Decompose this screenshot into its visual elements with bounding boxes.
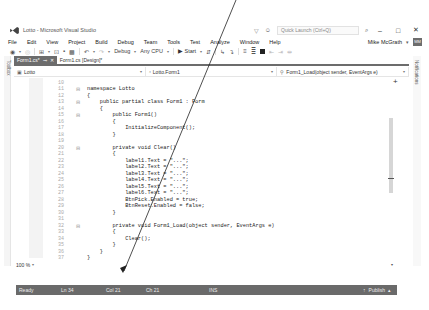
clear-bookmarks-icon[interactable]: ⇹ <box>287 48 292 55</box>
redo-icon[interactable]: ↷ <box>99 48 104 55</box>
step-into-icon[interactable]: ↳ <box>220 48 225 55</box>
search-icon[interactable]: ⌕ <box>365 27 368 34</box>
forward-navigation-icon[interactable]: ◎ <box>25 48 30 55</box>
menu-team[interactable]: Team <box>144 39 157 45</box>
dropdown-caret-icon: ▾ <box>108 49 110 54</box>
solution-platform-select[interactable]: Any CPU <box>140 48 163 54</box>
next-bookmark-icon[interactable]: ⇥ <box>278 48 283 55</box>
chevron-up-icon: ▴ <box>388 287 391 293</box>
menu-test[interactable]: Test <box>190 39 200 45</box>
save-icon[interactable]: ▪ <box>63 48 65 54</box>
standard-toolbar: ◉ ▾ ◎ ⊞ ▾ ⊡ ▪ ▩ ↶ ▾ ↷ ▾ Debug ▾ Any CPU … <box>10 46 422 56</box>
toolbox-panel-tab[interactable]: Toolbox <box>4 56 11 266</box>
class-name: Lotto.Form1 <box>153 69 180 75</box>
line-number: Ln 34 <box>61 287 74 293</box>
start-button[interactable]: ▶ Start <box>178 48 196 54</box>
browser-link-icon[interactable]: ⇵ <box>206 48 211 55</box>
notifications-panel-tab[interactable]: Notifications <box>413 56 421 266</box>
menu-bar: File Edit View Project Build Debug Team … <box>8 37 422 46</box>
tab-form1-design[interactable]: Form1.cs [Design]* <box>57 56 106 64</box>
dropdown-caret-icon: ▾ <box>48 49 50 54</box>
menu-project[interactable]: Project <box>68 39 85 45</box>
status-bar-right: INS ↑ Publish ▴ <box>197 285 397 295</box>
step-over-icon[interactable]: ↴ <box>229 48 234 55</box>
solution-configuration-select[interactable]: Debug <box>114 48 130 54</box>
line-number: 37 <box>46 255 64 261</box>
document-tabs: Form1.cs* ⊸ ✕ Form1.cs [Design]* <box>14 57 409 66</box>
insert-mode: INS <box>209 287 217 293</box>
class-dropdown[interactable]: ⁴ Lotto.Form1 ▾ <box>146 67 278 76</box>
code-editor[interactable]: 1011⊟namespace Lotto12{13⊟ public partia… <box>14 78 399 268</box>
prev-bookmark-icon[interactable]: ⇤ <box>269 48 274 55</box>
dropdown-caret-icon: ▾ <box>200 49 202 54</box>
split-window-icon[interactable]: + <box>393 77 398 86</box>
title-bar: Lotto - Microsoft Visual Studio ▽ ☺ Quic… <box>10 24 422 36</box>
uncomment-icon[interactable]: ≣ <box>251 48 256 55</box>
minimize-button[interactable]: ‒ <box>374 27 386 34</box>
close-icon[interactable]: ✕ <box>50 58 54 63</box>
undo-icon[interactable]: ↶ <box>84 48 89 55</box>
menu-analyze[interactable]: Analyze <box>210 39 230 45</box>
code-line[interactable]: 37} <box>14 255 394 263</box>
avatar[interactable]: MM <box>413 38 422 46</box>
quick-launch-input[interactable]: Quick Launch (Ctrl+Q) <box>277 26 359 35</box>
notifications-filter-icon[interactable]: ▽ <box>254 27 259 34</box>
method-icon: ⚲ <box>280 69 284 75</box>
member-dropdown[interactable]: ⚲ Form1_Load(object sender, EventArgs e)… <box>277 67 409 76</box>
tab-label: Form1.cs* <box>17 57 40 63</box>
project-dropdown[interactable]: ▣ Lotto ▾ <box>14 67 146 76</box>
open-file-icon[interactable]: ⊡ <box>54 48 59 55</box>
separator <box>215 48 216 55</box>
dropdown-caret-icon: ▾ <box>19 49 21 54</box>
pin-icon[interactable]: ⊸ <box>43 58 47 63</box>
new-project-icon[interactable]: ⊞ <box>39 48 44 55</box>
back-navigation-icon[interactable]: ◉ <box>10 48 15 55</box>
menu-debug[interactable]: Debug <box>118 39 134 45</box>
notifications-label: Notifications <box>414 60 419 85</box>
window-title: Lotto - Microsoft Visual Studio <box>23 27 96 33</box>
user-name[interactable]: Mike McGrath <box>368 39 402 45</box>
member-name: Form1_Load(object sender, EventArgs e) <box>286 69 377 75</box>
dropdown-caret-icon: ▾ <box>134 49 136 54</box>
class-icon: ⁴ <box>149 69 151 75</box>
menu-tools[interactable]: Tools <box>167 39 180 45</box>
chevron-down-icon: ▾ <box>271 69 273 74</box>
separator <box>173 48 174 55</box>
chevron-down-icon[interactable]: ▾ <box>406 39 409 45</box>
quick-launch-placeholder: Quick Launch (Ctrl+Q) <box>281 27 331 33</box>
project-name: Lotto <box>24 69 35 75</box>
status-text: Ready <box>19 287 33 293</box>
menu-help[interactable]: Help <box>269 39 280 45</box>
menu-build[interactable]: Build <box>95 39 107 45</box>
feedback-icon[interactable]: ☺ <box>265 27 271 33</box>
dropdown-caret-icon: ▾ <box>167 49 169 54</box>
maximize-button[interactable]: □ <box>392 27 404 34</box>
tab-form1-code[interactable]: Form1.cs* ⊸ ✕ <box>14 56 57 64</box>
menu-file[interactable]: File <box>8 39 17 45</box>
menu-view[interactable]: View <box>46 39 58 45</box>
vertical-scrollbar[interactable] <box>389 118 393 193</box>
navigation-bar: ▣ Lotto ▾ ⁴ Lotto.Form1 ▾ ⚲ Form1_Load(o… <box>14 67 409 77</box>
column-number: Col 21 <box>106 287 120 293</box>
status-bar: Ready Ln 34 Col 21 Ch 21 <box>16 285 197 295</box>
tab-label: Form1.cs [Design]* <box>60 57 103 63</box>
bookmark-icon[interactable] <box>260 49 265 54</box>
close-button[interactable]: ✕ <box>410 26 422 34</box>
csharp-project-icon: ▣ <box>17 69 22 75</box>
publish-label: Publish <box>369 287 385 293</box>
publish-button[interactable]: ↑ Publish ▴ <box>363 287 391 293</box>
dropdown-caret-icon: ▾ <box>93 49 95 54</box>
visual-studio-logo-icon <box>10 27 19 34</box>
zoom-level[interactable]: 100 % <box>16 262 30 268</box>
comment-icon[interactable]: ≡ <box>243 48 247 54</box>
publish-icon: ↑ <box>363 287 366 293</box>
toolbox-label: Toolbox <box>4 60 11 76</box>
save-all-icon[interactable]: ▩ <box>69 48 75 55</box>
separator <box>79 48 80 55</box>
chevron-down-icon[interactable]: ▾ <box>32 262 34 267</box>
scroll-down-icon[interactable]: ▾ <box>391 262 393 267</box>
menu-edit[interactable]: Edit <box>27 39 36 45</box>
separator <box>238 48 239 55</box>
menu-window[interactable]: Window <box>240 39 260 45</box>
start-label: Start <box>185 48 197 54</box>
